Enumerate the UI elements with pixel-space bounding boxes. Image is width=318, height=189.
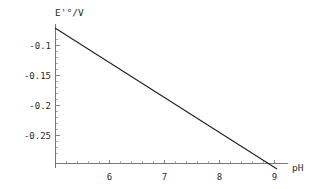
axes-group [55,24,288,168]
x-tick-label-9: 9 [272,172,277,182]
axis-titles: E'°/V pH [55,7,304,173]
y-tick-label-n0-2: -0.2 [29,101,51,111]
chart-figure: 6 7 8 9 -0.1 -0.15 -0.2 -0.25 E'°/V pH [0,0,318,189]
data-line-series-1 [55,28,277,169]
x-axis-title: pH [292,162,304,173]
x-tick-label-8: 8 [217,172,222,182]
y-tick-label-n0-15: -0.15 [24,71,51,81]
y-tick-label-n0-1: -0.1 [29,41,51,51]
y-tick-marks [56,46,60,136]
x-tick-label-7: 7 [162,172,167,182]
x-tick-labels: 6 7 8 9 [107,172,277,182]
y-tick-label-n0-25: -0.25 [24,131,51,141]
x-tick-marks [110,160,275,164]
y-axis-title: E'°/V [55,7,84,18]
x-tick-label-6: 6 [107,172,112,182]
line-chart: 6 7 8 9 -0.1 -0.15 -0.2 -0.25 E'°/V pH [0,0,318,189]
y-tick-labels: -0.1 -0.15 -0.2 -0.25 [24,41,51,141]
data-series-group [55,28,277,169]
